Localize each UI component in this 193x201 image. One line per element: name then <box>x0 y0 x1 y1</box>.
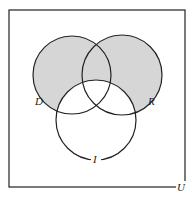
set-i-circle <box>56 80 136 160</box>
venn-diagram: D R I U <box>0 0 193 201</box>
universe-label: U <box>177 181 186 193</box>
set-r-label: R <box>147 95 155 107</box>
shaded-region <box>33 35 162 115</box>
set-d-label: D <box>34 95 43 107</box>
